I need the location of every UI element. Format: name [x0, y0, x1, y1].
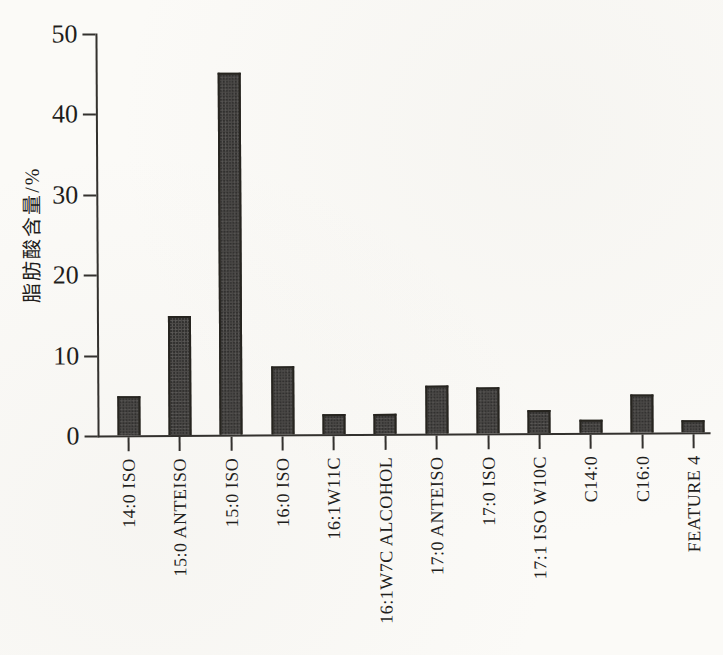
scanned-figure-page: 脂肪酸含量/% 0102030405014:0 ISO15:0 ANTEISO1…: [0, 0, 723, 655]
bar-14-0-iso: [117, 396, 140, 435]
y-tick: [83, 194, 96, 196]
x-category-label: FEATURE 4: [684, 455, 705, 552]
y-tick: [84, 355, 97, 357]
bar-feature-4: [682, 420, 705, 432]
x-tick: [282, 436, 284, 450]
bar-c14-0: [579, 420, 602, 433]
x-category-label: C14:0: [581, 456, 601, 503]
bar-16-1w11c: [322, 414, 345, 434]
x-category-label: 14:0 ISO: [119, 458, 139, 528]
bar-17-1-iso-w10c: [528, 410, 551, 433]
x-tick: [230, 437, 232, 451]
y-tick-label: 50: [17, 20, 77, 48]
y-tick-label: 10: [19, 342, 79, 370]
y-tick: [83, 114, 96, 116]
y-tick-label: 20: [19, 262, 79, 290]
y-tick-label: 40: [18, 101, 78, 129]
x-tick: [384, 436, 386, 450]
x-category-label: C16:0: [632, 455, 652, 502]
x-category-label: 17:0 ISO: [478, 456, 498, 526]
x-tick: [128, 437, 130, 451]
x-category-label: 16:0 ISO: [273, 457, 293, 527]
y-tick: [82, 33, 95, 35]
y-tick-label: 30: [18, 181, 78, 209]
x-tick: [487, 435, 489, 449]
x-category-label: 15:0 ISO: [221, 458, 241, 528]
x-tick: [641, 435, 643, 449]
x-tick: [436, 436, 438, 450]
bar-17-0-iso: [476, 387, 499, 433]
y-tick: [84, 275, 97, 277]
x-category-label: 17:1 ISO W10C: [530, 456, 551, 579]
y-tick: [85, 435, 98, 437]
bar-16-1w7c-alcohol: [374, 414, 397, 434]
x-tick: [538, 435, 540, 449]
x-tick: [333, 436, 335, 450]
y-axis-line: [95, 33, 99, 437]
bar-15-0-iso: [218, 73, 243, 435]
bar-chart: 脂肪酸含量/% 0102030405014:0 ISO15:0 ANTEISO1…: [0, 0, 723, 655]
x-category-label: 15:0 ANTEISO: [170, 458, 191, 577]
bar-17-0-anteiso: [425, 386, 448, 434]
x-category-label: 17:0 ANTEISO: [427, 457, 448, 576]
bar-c16-0: [630, 394, 653, 432]
x-tick: [590, 435, 592, 449]
x-category-label: 16:1W7C ALCOHOL: [375, 457, 396, 624]
x-tick: [179, 437, 181, 451]
y-tick-label: 0: [19, 422, 79, 450]
bar-15-0-anteiso: [168, 316, 192, 435]
bar-16-0-iso: [271, 366, 294, 434]
x-category-label: 16:1W11C: [324, 457, 344, 539]
x-tick: [693, 434, 695, 448]
